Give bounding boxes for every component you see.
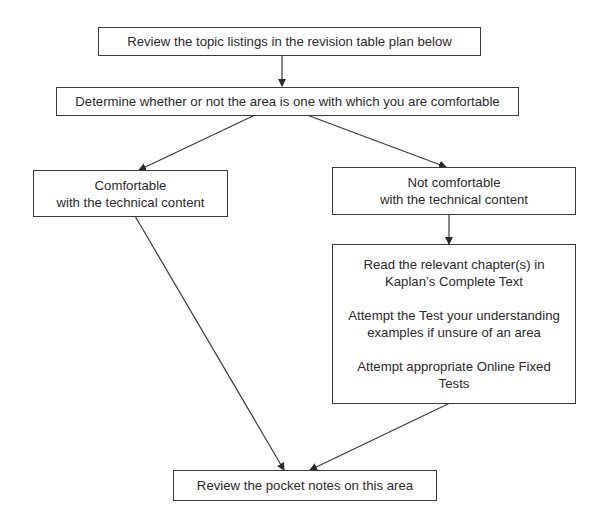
node-text: Review the topic listings in the revisio… bbox=[127, 33, 452, 50]
node-study-actions: Read the relevant chapter(s) in Kaplan’s… bbox=[332, 244, 576, 404]
node-text: with the technical content bbox=[56, 194, 204, 211]
arrow-study-to-pocket-notes bbox=[310, 403, 450, 470]
node-comfortable: Comfortable with the technical content bbox=[33, 170, 228, 217]
node-text: Review the pocket notes on this area bbox=[197, 477, 413, 494]
node-not-comfortable: Not comfortable with the technical conte… bbox=[332, 167, 576, 215]
node-text: with the technical content bbox=[380, 191, 528, 208]
arrow-determine-to-comfortable bbox=[139, 115, 255, 170]
arrow-comfortable-to-pocket-notes bbox=[135, 216, 284, 470]
node-text: Comfortable bbox=[95, 177, 167, 194]
arrow-determine-to-not-comfortable bbox=[307, 115, 446, 167]
node-review-topics: Review the topic listings in the revisio… bbox=[98, 27, 481, 56]
node-text: Determine whether or not the area is one… bbox=[75, 93, 499, 110]
node-determine-comfort: Determine whether or not the area is one… bbox=[56, 87, 519, 116]
node-review-pocket-notes: Review the pocket notes on this area bbox=[173, 470, 437, 501]
node-text: Not comfortable bbox=[407, 174, 500, 191]
action-read-chapters: Read the relevant chapter(s) in Kaplan’s… bbox=[363, 256, 544, 290]
action-test-understanding: Attempt the Test your understanding exam… bbox=[348, 307, 560, 341]
action-online-tests: Attempt appropriate Online Fixed Tests bbox=[357, 358, 551, 392]
